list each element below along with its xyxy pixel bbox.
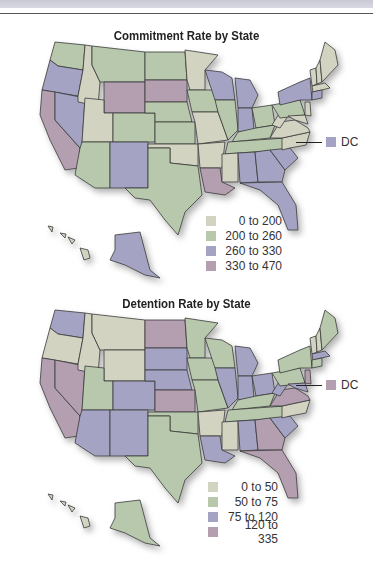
dc-swatch bbox=[326, 137, 336, 147]
state-ny bbox=[278, 78, 312, 105]
legend-item: 260 to 330 bbox=[206, 243, 282, 258]
legend-swatch bbox=[206, 216, 216, 226]
state-co bbox=[113, 381, 155, 410]
state-nm bbox=[110, 410, 148, 456]
state-ms bbox=[222, 153, 238, 182]
state-mt bbox=[92, 314, 145, 350]
state-me bbox=[320, 310, 338, 350]
state-hi bbox=[80, 516, 90, 528]
detention-map-panel: Detention Rate by State DC 0 to 50 50 to… bbox=[0, 288, 373, 558]
state-nm bbox=[110, 142, 148, 188]
legend-item: 50 to 75 bbox=[208, 494, 278, 509]
legend-swatch bbox=[208, 527, 218, 537]
dc-callout: DC bbox=[296, 135, 358, 149]
legend-swatch bbox=[206, 246, 216, 256]
legend-swatch bbox=[208, 482, 218, 492]
state-oh bbox=[252, 105, 275, 128]
dc-label: DC bbox=[341, 378, 358, 392]
state-al bbox=[238, 420, 258, 451]
state-hi-islands bbox=[48, 226, 75, 244]
state-ar bbox=[198, 142, 225, 168]
map-legend: 0 to 200 200 to 260 260 to 330 330 to 47… bbox=[206, 213, 282, 273]
commitment-rate-map bbox=[0, 20, 373, 290]
state-sd bbox=[145, 348, 187, 370]
dc-label: DC bbox=[341, 135, 358, 149]
state-nj bbox=[305, 102, 311, 116]
state-ct bbox=[312, 90, 322, 100]
legend-swatch bbox=[206, 261, 216, 271]
state-ak bbox=[110, 232, 160, 278]
state-co bbox=[113, 113, 155, 142]
header-band bbox=[0, 0, 373, 8]
state-ar bbox=[198, 410, 225, 436]
dc-callout: DC bbox=[296, 378, 358, 392]
state-mt bbox=[92, 46, 145, 82]
map-title: Commitment Rate by State bbox=[22, 28, 350, 43]
state-az bbox=[75, 142, 110, 188]
state-az bbox=[75, 410, 110, 456]
state-nd bbox=[145, 320, 187, 348]
legend-label: 0 to 50 bbox=[222, 480, 278, 494]
legend-swatch bbox=[206, 231, 216, 241]
state-in bbox=[238, 376, 254, 400]
state-ms bbox=[222, 421, 238, 450]
state-ks bbox=[155, 390, 195, 412]
legend-swatch bbox=[208, 497, 218, 507]
legend-item: 330 to 470 bbox=[206, 258, 282, 273]
legend-label: 0 to 200 bbox=[220, 214, 282, 228]
state-ct bbox=[312, 358, 322, 368]
header-divider bbox=[0, 13, 373, 14]
state-oh bbox=[252, 373, 275, 396]
dc-leader-line bbox=[296, 142, 322, 143]
state-hi bbox=[80, 248, 90, 260]
state-me bbox=[320, 42, 338, 82]
state-al bbox=[238, 152, 258, 183]
legend-swatch bbox=[208, 512, 218, 522]
legend-label: 120 to 335 bbox=[222, 518, 278, 546]
detention-rate-map bbox=[0, 288, 373, 558]
legend-label: 330 to 470 bbox=[220, 259, 282, 273]
legend-label: 260 to 330 bbox=[220, 244, 282, 258]
legend-label: 50 to 75 bbox=[222, 495, 278, 509]
legend-label: 200 to 260 bbox=[220, 229, 282, 243]
map-title: Detention Rate by State bbox=[22, 296, 350, 311]
legend-item: 0 to 200 bbox=[206, 213, 282, 228]
commitment-map-panel: Commitment Rate by State DC 0 to 200 200… bbox=[0, 20, 373, 290]
state-nd bbox=[145, 52, 187, 80]
state-sd bbox=[145, 80, 187, 102]
map-legend: 0 to 50 50 to 75 75 to 120 120 to 335 bbox=[208, 479, 278, 539]
state-mi bbox=[235, 346, 258, 376]
state-ak bbox=[110, 500, 160, 546]
state-ny bbox=[278, 346, 312, 373]
legend-item: 0 to 50 bbox=[208, 479, 278, 494]
state-hi-islands bbox=[48, 494, 75, 512]
dc-swatch bbox=[326, 380, 336, 390]
dc-leader-line bbox=[296, 385, 322, 386]
state-mi bbox=[235, 78, 258, 108]
state-wy bbox=[104, 350, 145, 381]
legend-item: 200 to 260 bbox=[206, 228, 282, 243]
state-wy bbox=[104, 82, 145, 113]
state-in bbox=[238, 108, 254, 132]
legend-item: 120 to 335 bbox=[208, 524, 278, 539]
state-ks bbox=[155, 122, 195, 144]
